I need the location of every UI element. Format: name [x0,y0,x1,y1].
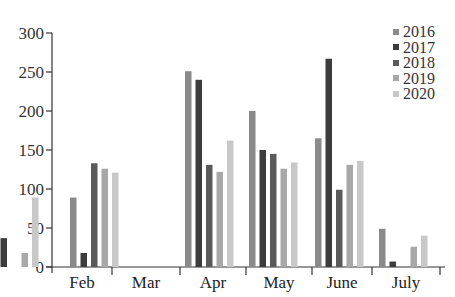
legend-item-2019: 2019 [393,71,435,87]
legend-item-2016: 2016 [393,24,435,40]
bar-2019-june [347,165,354,267]
bar-2020-apr [227,141,234,267]
y-tick-label: 100 [19,180,45,199]
legend-swatch-icon [393,29,399,35]
bar-2017-may [260,150,267,267]
bar-2020-feb [32,198,39,267]
legend-label: 2019 [403,71,435,86]
bar-2018-mar [91,163,98,267]
bar-2017-mar [81,253,88,267]
legend-swatch-icon [393,60,399,66]
legend-item-2020: 2020 [393,86,435,102]
bar-2016-may [249,111,256,267]
bar-2019-july [411,247,418,267]
bar-2017-apr [196,80,203,267]
x-tick-label: May [263,273,295,292]
x-tick-label: June [326,273,357,292]
legend-swatch-icon [393,75,399,81]
x-tick-label: Feb [69,273,95,292]
bar-2016-june [315,138,322,267]
legend-swatch-icon [393,91,399,97]
y-tick-label: 150 [19,141,45,160]
bar-2018-apr [206,165,213,267]
bar-2019-apr [217,172,224,267]
bar-2017-june [326,59,333,267]
bar-2020-july [421,236,428,267]
bar-2018-may [270,154,277,267]
x-tick-label: Apr [200,273,227,292]
legend-item-2017: 2017 [393,40,435,56]
y-tick-label: 250 [19,63,45,82]
legend-label: 2018 [403,55,435,70]
bar-2019-mar [102,169,109,267]
bar-2019-feb [22,253,29,267]
y-tick-label: 300 [19,24,45,43]
bar-2016-mar [70,198,77,267]
legend-item-2018: 2018 [393,55,435,71]
bar-2017-feb [1,238,8,267]
legend-label: 2020 [403,86,435,101]
bar-2017-july [390,262,397,267]
chart-legend: 20162017201820192020 [393,24,435,102]
x-tick-label: Mar [132,273,161,292]
bar-2020-mar [112,173,119,267]
legend-label: 2016 [403,24,435,39]
bar-2020-june [357,161,364,267]
bar-2018-june [336,190,343,267]
bar-2016-apr [185,71,192,267]
bar-2020-may [291,162,298,267]
x-tick-label: July [392,273,421,292]
bar-2016-july [379,229,386,267]
legend-label: 2017 [403,40,435,55]
y-tick-label: 200 [19,102,45,121]
bar-chart: 050100150200250300FebMarAprMayJuneJuly [0,0,455,297]
bar-2019-may [281,169,288,267]
legend-swatch-icon [393,44,399,50]
